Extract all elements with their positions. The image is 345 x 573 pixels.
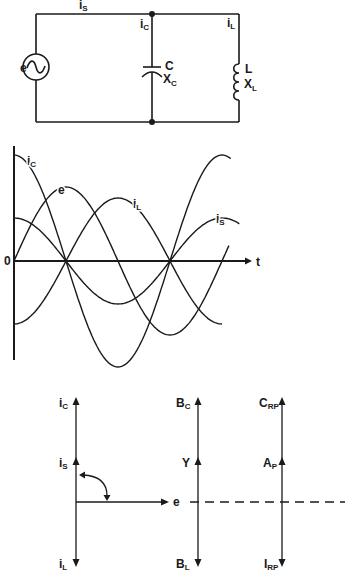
arrow-up-icon — [195, 457, 202, 465]
arrow-right-icon — [161, 499, 169, 506]
ac-sine-source-icon — [23, 54, 49, 80]
phasor-irp-label: IRP — [264, 557, 279, 572]
arrow-down-icon — [195, 559, 202, 567]
angle-arc — [83, 475, 107, 496]
arrow-up-icon — [279, 397, 286, 405]
phasor-bl-label: BL — [176, 557, 190, 572]
origin-label: 0 — [4, 254, 11, 268]
x-axis-arrow-icon — [245, 258, 252, 265]
phasor-is-label: iS — [59, 456, 68, 471]
x-axis-label: t — [256, 255, 260, 269]
inductor-icon — [234, 64, 239, 100]
phasor-y-label: Y — [182, 456, 190, 470]
phasor-ic-label: iC — [59, 396, 68, 411]
phasor-il-label: iL — [59, 557, 67, 572]
circuit-schematic: e C XC L XL iS iC iL — [20, 0, 257, 125]
inductor-reactance-label: XL — [244, 77, 257, 93]
voltage-curve-label: e — [58, 183, 65, 197]
phasor-e-label: e — [173, 495, 180, 509]
arrow-up-icon — [195, 397, 202, 405]
junction-dot-bottom — [149, 119, 155, 125]
arc-arrow-down-icon — [104, 495, 111, 501]
arrow-up-icon — [279, 457, 286, 465]
capacitor-reactance-label: XC — [163, 72, 177, 88]
inductor-name-label: L — [245, 62, 252, 76]
admittance-phasor-diagram: BC Y BL — [176, 396, 202, 572]
power-phasor-diagram: CRP AP IRP — [259, 396, 286, 572]
waveform-graph: 0 t iC e iL iS — [4, 146, 260, 367]
current-phasor-diagram: iC iS iL e — [59, 396, 180, 572]
arc-arrow-left-icon — [79, 472, 85, 479]
parallel-lc-circuit-figure: e C XC L XL iS iC iL 0 t iC e — [0, 0, 345, 573]
arrow-down-icon — [279, 559, 286, 567]
phasor-crp-label: CRP — [259, 396, 279, 411]
phasor-bc-label: BC — [176, 396, 191, 411]
source-current-label: iS — [79, 0, 88, 13]
source-current-curve-label: iS — [216, 212, 225, 227]
inductor-current-curve-label: iL — [133, 197, 141, 212]
junction-dot-top — [149, 11, 155, 17]
inductor-current-label: iL — [227, 16, 235, 31]
capacitor-current-curve-label: iC — [27, 154, 36, 169]
capacitor-current-label: iC — [140, 17, 149, 32]
capacitor-name-label: C — [165, 59, 174, 73]
arrow-up-icon — [73, 397, 80, 405]
phasor-ap-label: AP — [263, 456, 278, 471]
source-label: e — [20, 61, 27, 75]
arrow-down-icon — [73, 559, 80, 567]
arrow-up-icon — [73, 457, 80, 465]
